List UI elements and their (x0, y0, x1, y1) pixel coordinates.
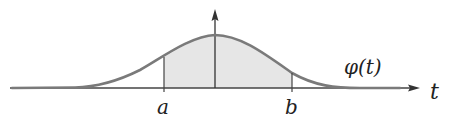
label-phi: φ(t) (344, 55, 382, 79)
label-b: b (285, 95, 298, 119)
label-a: a (157, 95, 169, 119)
shaded-area (164, 35, 292, 88)
label-t-axis: t (430, 79, 439, 104)
diagram-canvas: a b φ(t) t (0, 0, 454, 136)
diagram: a b φ(t) t (0, 0, 454, 136)
